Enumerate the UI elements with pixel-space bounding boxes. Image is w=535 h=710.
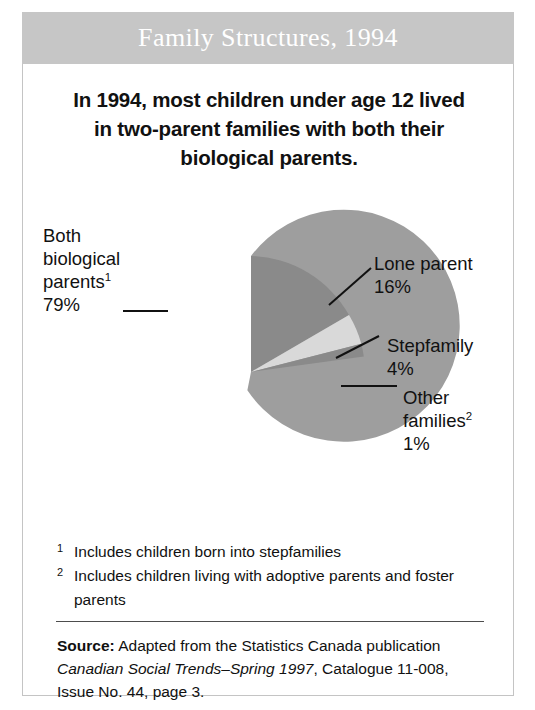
pie-label-line-2: families2 [403,410,472,433]
footnote-text: Includes children living with adoptive p… [74,567,454,607]
chart-subtitle: In 1994, most children under age 12 live… [41,85,497,172]
leader-line-lone-parent [329,268,371,305]
footnotes: 1Includes children born into stepfamilie… [57,540,487,612]
pie-label-value: 16% [374,276,473,299]
pie-label-other-families: Other families2 1% [403,387,472,456]
page-title: Family Structures, 1994 [138,23,398,53]
chart-page: Family Structures, 1994 In 1994, most ch… [0,0,535,710]
subtitle-line-1: In 1994, most children under age 12 live… [41,85,497,114]
pie-label-line-2: biological [43,248,120,271]
pie-label-line-1: Both [43,225,120,248]
source-publication: Canadian Social Trends–Spring 1997 [57,660,314,677]
pie-slice-other-families [251,344,364,372]
pie-label-text: families [403,410,466,431]
subtitle-line-3: biological parents. [41,143,497,172]
section-divider [56,621,484,622]
pie-label-stepfamily: Stepfamily 4% [387,335,473,381]
footnote-text: Includes children born into stepfamilies [74,543,341,560]
pie-slice-both-biological-parents [247,210,459,442]
source-label: Source: [57,637,115,654]
pie-label-text: parents [43,271,105,292]
pie-label-line-1: Other [403,387,472,410]
footnote-marker: 1 [57,540,63,557]
pie-label-line-1: Stepfamily [387,335,473,358]
pie-label-line-3: parents1 [43,271,120,294]
footnote-marker: 2 [57,564,63,581]
footnote-2: 2Includes children living with adoptive … [57,564,487,611]
footnote-1: 1Includes children born into stepfamilie… [57,540,487,563]
title-bar: Family Structures, 1994 [22,12,514,64]
subtitle-line-2: in two-parent families with both their [41,114,497,143]
footnote-marker: 2 [466,410,472,422]
pie-label-line-1: Lone parent [374,253,473,276]
source-text-before: Adapted from the Statistics Canada publi… [115,637,441,654]
pie-label-value: 4% [387,358,473,381]
chart-card: Family Structures, 1994 In 1994, most ch… [22,12,514,696]
footnote-marker: 1 [105,271,111,283]
source-note: Source: Adapted from the Statistics Cana… [57,635,489,704]
pie-label-lone-parent: Lone parent 16% [374,253,473,299]
pie-label-value: 79% [43,294,120,317]
pie-slice-lone-parent [251,256,349,372]
leader-line-stepfamily [336,336,379,358]
pie-slice-stepfamily [251,315,361,372]
pie-label-both-biological-parents: Both biological parents1 79% [43,225,120,317]
pie-label-value: 1% [403,433,472,456]
